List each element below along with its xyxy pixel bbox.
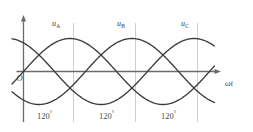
- three-phase-waveform-figure: O ωt uAuBuC 120°120°120°: [0, 0, 253, 132]
- angle-value: 120: [37, 111, 50, 121]
- curve-label-u-c: uC: [181, 20, 189, 28]
- degree-symbol: °: [174, 110, 176, 116]
- x-axis-arrowhead: [215, 69, 222, 74]
- degree-symbol: °: [50, 110, 52, 116]
- x-axis-label: ωt: [225, 80, 233, 88]
- y-axis-arrowhead: [21, 15, 26, 22]
- curve-label-u-b: uB: [117, 20, 125, 28]
- curve-label-u-a: uA: [52, 20, 60, 28]
- angle-label-2: 120°: [99, 112, 114, 121]
- angle-label-1: 120°: [37, 112, 52, 121]
- curve-label-subscript: B: [121, 23, 125, 29]
- origin-label: O: [17, 74, 23, 83]
- degree-symbol: °: [112, 110, 114, 116]
- angle-label-3: 120°: [161, 112, 176, 121]
- axes-group: [17, 15, 222, 122]
- angle-value: 120: [161, 111, 174, 121]
- angle-value: 120: [99, 111, 112, 121]
- curve-label-subscript: C: [185, 23, 189, 29]
- curve-label-subscript: A: [56, 23, 60, 29]
